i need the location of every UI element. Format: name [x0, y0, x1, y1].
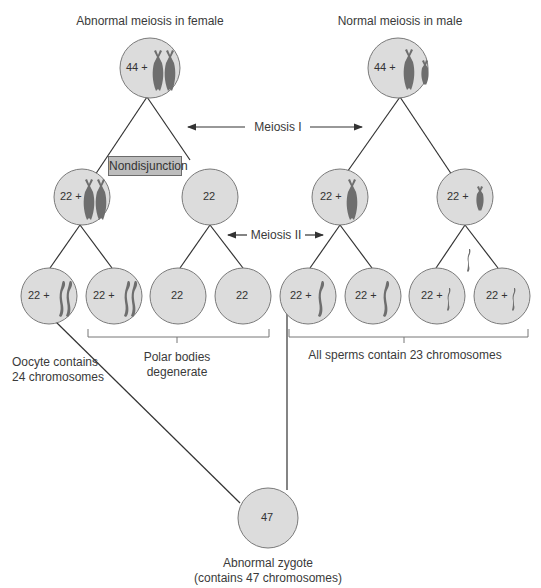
cell-male-m2-2-text: 22 +	[355, 289, 377, 301]
cell-female-m1-left-text: 22 +	[60, 190, 82, 202]
cell-male-m1-right-text: 22 +	[447, 190, 469, 202]
cell-male-m1-left-text: 22 +	[320, 190, 342, 202]
cell-female-m1-right-text: 22	[203, 190, 215, 202]
nondisjunction-label: Nondisjunction	[108, 156, 182, 176]
cell-female-m2-3-text: 22	[171, 289, 183, 301]
male-title: Normal meiosis in male	[310, 14, 490, 29]
cell-female-m2-2-text: 22 +	[93, 289, 115, 301]
cell-male-m2-3-text: 22 +	[421, 289, 443, 301]
polar-note-line1: Polar bodies	[127, 350, 227, 365]
meiosis-1-label: Meiosis I	[248, 120, 308, 135]
polar-note-line2: degenerate	[127, 365, 227, 380]
oocyte-note-line2: 24 chromosomes	[12, 370, 104, 385]
zygote-note-line2: (contains 47 chromosomes)	[178, 571, 358, 586]
cell-female-parent-text: 44 +	[126, 61, 148, 73]
cell-zygote-text: 47	[261, 511, 273, 523]
sperms-note: All sperms contain 23 chromosomes	[300, 348, 510, 363]
zygote-note-line1: Abnormal zygote	[178, 556, 358, 571]
cell-female-m2-4-text: 22	[236, 289, 248, 301]
cell-female-m2-1-text: 22 +	[28, 289, 50, 301]
cell-male-parent-text: 44 +	[374, 61, 396, 73]
oocyte-note-line1: Oocyte contains	[12, 355, 98, 370]
cell-male-m2-1-text: 22 +	[290, 289, 312, 301]
female-title: Abnormal meiosis in female	[60, 14, 240, 29]
brackets	[88, 329, 528, 343]
cell-male-m2-4-text: 22 +	[486, 289, 508, 301]
meiosis-2-label: Meiosis II	[247, 228, 305, 243]
meiosis-diagram	[0, 0, 541, 588]
